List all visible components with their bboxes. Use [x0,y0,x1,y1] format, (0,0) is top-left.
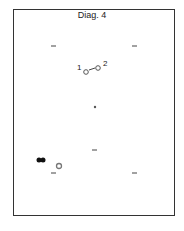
center-point [94,106,96,108]
node-label-1: 1 [77,63,81,72]
node-1-marker [84,70,89,75]
gray-circle-point [57,164,62,169]
edge-1-2 [89,68,95,70]
node-2-marker [96,66,101,71]
filled-point [41,158,46,163]
node-label-2: 2 [103,59,107,68]
tick-marks [51,46,137,173]
diagram-canvas [0,0,184,231]
